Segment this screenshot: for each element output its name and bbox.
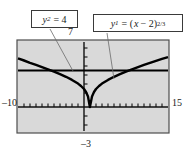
axis-label-ymin: –3	[81, 139, 91, 149]
axis-label-xmin: –10	[2, 98, 17, 108]
plot-background	[17, 40, 169, 133]
label-y1-exponent: 2/3	[157, 20, 165, 27]
label-y1-subscript: 1	[115, 19, 119, 27]
label-y1-equals: = (	[122, 18, 133, 29]
label-y1-minus: − 2)	[141, 18, 157, 29]
label-y2-subscript: 2	[47, 15, 51, 23]
label-y2-equals: = 4	[53, 14, 66, 25]
axis-label-xmax: 15	[172, 98, 182, 108]
axis-label-ymax: 7	[68, 27, 73, 37]
label-y1-x: x	[134, 18, 138, 29]
label-box-y1: y1= (x− 2)2/3	[93, 14, 183, 32]
